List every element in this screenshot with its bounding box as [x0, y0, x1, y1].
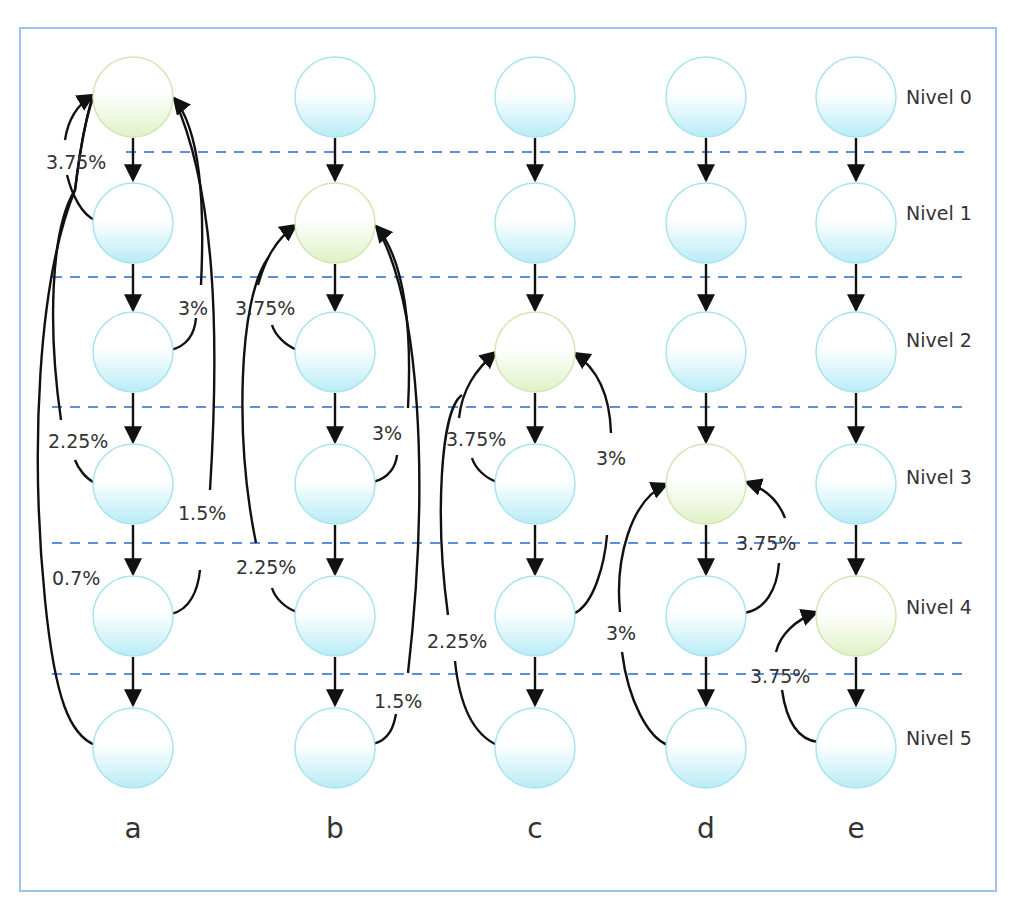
node-e-level-3 [816, 444, 896, 524]
arc-b-5-1 [373, 714, 396, 744]
level-label-1: Nivel 1 [906, 202, 972, 224]
arc-e-5-4-upper [776, 612, 817, 652]
arc-c-4-2-upper [574, 353, 611, 433]
pct-d-5-3: 3% [606, 622, 636, 644]
column-label-d: d [697, 812, 715, 845]
arc-a-5-0 [38, 98, 95, 745]
arc-e-5-4 [782, 690, 818, 742]
arc-d-5-3 [622, 652, 668, 745]
level-label-0: Nivel 0 [906, 86, 972, 108]
pct-c-5-2: 2.25% [427, 630, 487, 652]
level-label-2: Nivel 2 [906, 329, 972, 351]
node-c-level-4 [495, 576, 575, 656]
pct-b-4-1: 2.25% [236, 556, 296, 578]
node-d-level-0 [666, 57, 746, 137]
pct-d-4-3: 3.75% [736, 532, 796, 554]
column-label-e: e [847, 812, 864, 845]
node-a-level-4 [93, 576, 173, 656]
node-c-level-1 [495, 183, 575, 263]
arc-a-2-0 [171, 318, 196, 350]
pct-a-1-0: 3.75% [46, 151, 106, 173]
node-d-level-5 [666, 708, 746, 788]
node-b-level-3 [295, 444, 375, 524]
arc-d-5-3-upper [619, 484, 667, 612]
node-c-level-0 [495, 57, 575, 137]
node-e-level-4 [816, 576, 896, 656]
node-a-level-1 [93, 183, 173, 263]
node-e-level-2 [816, 312, 896, 392]
node-c-level-5 [495, 708, 575, 788]
arc-a-4-0-upper [174, 98, 214, 490]
column-label-c: c [527, 812, 542, 845]
column-label-b: b [326, 812, 344, 845]
pct-a-4-0: 1.5% [178, 502, 226, 524]
node-a-level-3 [93, 444, 173, 524]
node-d-level-3 [666, 444, 746, 524]
node-b-level-2 [295, 312, 375, 392]
node-b-level-1 [295, 183, 375, 263]
arc-c-3-2-upper [459, 352, 496, 418]
arc-a-3-0-upper [53, 98, 92, 420]
node-e-level-5 [816, 708, 896, 788]
arc-c-4-2 [573, 535, 607, 614]
pct-a-2-0: 3% [178, 297, 208, 319]
node-a-level-5 [93, 708, 173, 788]
level-label-5: Nivel 5 [906, 727, 972, 749]
node-b-level-5 [295, 708, 375, 788]
arc-a-1-0-upper [65, 95, 93, 140]
node-e-level-1 [816, 183, 896, 263]
node-d-level-2 [666, 312, 746, 392]
level-label-4: Nivel 4 [906, 596, 972, 618]
node-b-level-4 [295, 576, 375, 656]
node-c-level-2 [495, 312, 575, 392]
pct-a-5-0: 0.7% [52, 567, 100, 589]
arc-b-3-1 [373, 455, 397, 482]
level-label-3: Nivel 3 [906, 466, 972, 488]
pct-e-5-4: 3.75% [750, 665, 810, 687]
node-b-level-0 [295, 57, 375, 137]
pct-c-3-2: 3.75% [446, 428, 506, 450]
pct-b-3-1: 3% [372, 422, 402, 444]
pct-c-4-2: 3% [596, 447, 626, 469]
node-d-level-4 [666, 576, 746, 656]
arc-a-4-0 [171, 570, 200, 614]
node-e-level-0 [816, 57, 896, 137]
arc-d-4-3 [744, 563, 779, 613]
node-c-level-3 [495, 444, 575, 524]
column-labels: a b c d e [124, 812, 864, 845]
node-d-level-1 [666, 183, 746, 263]
level-labels: Nivel 0 Nivel 1 Nivel 2 Nivel 3 Nivel 4 … [906, 86, 972, 749]
arc-b-2-1 [272, 325, 297, 350]
pct-a-3-0: 2.25% [48, 430, 108, 452]
arc-b-5-1-upper [376, 226, 419, 673]
arc-b-4-1 [272, 588, 297, 612]
pct-b-5-1: 1.5% [374, 690, 422, 712]
level-transition-diagram: 3.75% 3% 2.25% 1.5% 0.7% 3.75% 3% 2.25% … [0, 0, 1010, 907]
arc-c-3-2 [472, 458, 497, 482]
arc-a-2-0-upper [174, 98, 202, 285]
column-label-a: a [124, 812, 141, 845]
node-a-level-2 [93, 312, 173, 392]
pct-b-2-1: 3.75% [235, 297, 295, 319]
arc-a-3-0 [75, 460, 95, 483]
arc-b-3-1-upper [376, 226, 409, 408]
node-a-level-0 [93, 57, 173, 137]
arc-d-4-3-upper [746, 482, 785, 518]
